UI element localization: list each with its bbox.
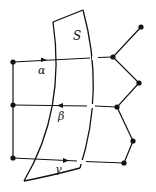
- arrow-gamma-icon: [63, 158, 69, 163]
- diagram-svg: S α β γ: [0, 0, 156, 192]
- label-gamma: γ: [55, 163, 62, 176]
- vertex-right-alpha: [110, 54, 115, 59]
- vertex-right-beta: [114, 104, 119, 109]
- label-s: S: [73, 29, 81, 43]
- vertex-right-mid1: [136, 80, 141, 85]
- label-alpha: α: [38, 64, 46, 77]
- arrow-beta-icon: [57, 103, 63, 108]
- vertex-right-gamma: [121, 160, 126, 165]
- vertex-left-beta: [10, 102, 15, 107]
- label-beta: β: [57, 110, 64, 123]
- surface-s: [24, 10, 93, 181]
- right-zigzag: [113, 27, 141, 163]
- diagram-canvas: S α β γ: [0, 0, 156, 192]
- vertex-right-mid2: [130, 138, 135, 143]
- surface-right-edge: [80, 10, 93, 168]
- vertex-left-gamma: [10, 155, 15, 160]
- vertex-left-alpha: [10, 59, 15, 64]
- vertex-right-top: [138, 24, 143, 29]
- surface-left-edge: [24, 22, 56, 181]
- surface-bottom-edge: [24, 168, 80, 181]
- arrow-alpha-icon: [41, 58, 47, 63]
- path-beta: [13, 105, 117, 107]
- surface-top-edge: [53, 10, 83, 22]
